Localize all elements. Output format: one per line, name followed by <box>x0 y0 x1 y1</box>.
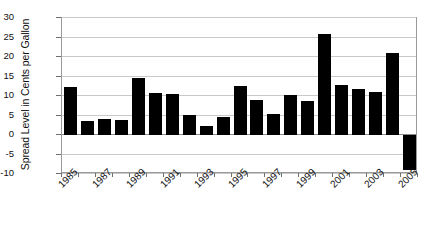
bar <box>183 115 196 135</box>
bar <box>267 114 280 135</box>
bar <box>369 92 382 135</box>
bar <box>250 100 263 135</box>
bar <box>115 120 128 135</box>
bar <box>149 93 162 135</box>
y-tick-label: 20 <box>0 51 14 61</box>
y-tick-label: 10 <box>0 90 14 100</box>
bar <box>335 85 348 135</box>
y-tick-label: 30 <box>0 12 14 22</box>
bar <box>81 121 94 135</box>
bar <box>217 117 230 135</box>
bar-series <box>62 18 416 172</box>
bar <box>166 94 179 135</box>
bar <box>352 89 365 135</box>
bar-chart: Spread Level in Cents per Gallon 3025201… <box>0 0 439 230</box>
plot-area <box>61 17 417 173</box>
y-tick-label: 0 <box>0 129 14 139</box>
bar <box>234 86 247 135</box>
bar <box>386 53 399 135</box>
y-tick-label: 15 <box>0 71 14 81</box>
y-tick-label: -10 <box>0 168 14 178</box>
bar <box>98 119 111 135</box>
y-axis-title: Spread Level in Cents per Gallon <box>14 7 36 182</box>
bar <box>403 135 416 170</box>
y-tick-label: 25 <box>0 32 14 42</box>
y-tick-label: -5 <box>0 149 14 159</box>
y-tick-label: 5 <box>0 110 14 120</box>
bar <box>284 95 297 135</box>
bar <box>301 101 314 135</box>
bar <box>200 126 213 135</box>
bar <box>132 78 145 135</box>
bar <box>318 34 331 135</box>
bar <box>64 87 77 135</box>
